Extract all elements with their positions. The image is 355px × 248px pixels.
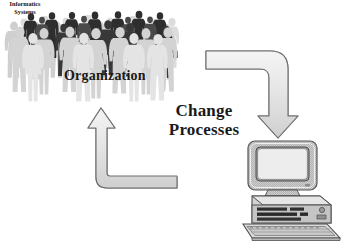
change-processes-label: Change Processes — [163, 102, 245, 138]
change-processes-line1: Change — [163, 102, 245, 119]
organization-label: Organization — [64, 68, 146, 84]
diagram-canvas: Organization Change Processes Informatic… — [0, 0, 355, 248]
change-processes-line2: Processes — [163, 121, 245, 138]
